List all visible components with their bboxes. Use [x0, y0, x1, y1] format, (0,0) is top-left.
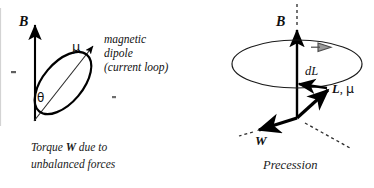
figure-canvas: B μ θ magnetic dipole (current loop) Tor…	[0, 0, 374, 188]
dipole-annotation-line-2: dipole	[104, 47, 133, 60]
scan-speck-left	[11, 71, 16, 73]
precession-torque-vector-W-label: W	[255, 134, 267, 149]
precession-direction-arrowhead	[311, 43, 331, 51]
panel-magnetic-dipole-torque: B μ θ magnetic dipole (current loop) Tor…	[0, 0, 187, 188]
scan-speck-right	[112, 96, 116, 98]
dipole-annotation-line-1: magnetic	[104, 33, 146, 46]
torque-caption-prefix: Torque	[31, 141, 66, 153]
dL-increment-label: dL	[305, 64, 318, 78]
magnetic-moment-symbol-mu: μ	[346, 81, 354, 96]
torque-vector-W-shaft	[259, 118, 297, 130]
torque-caption-line-1: Torque W due to	[31, 141, 107, 154]
dipole-moment-mu-label: μ	[72, 40, 80, 55]
field-vector-B-label: B	[19, 14, 28, 30]
dipole-annotation-line-3: (current loop)	[104, 61, 168, 74]
panel-precession: B dL L, μ W Precession	[187, 0, 374, 188]
angular-momentum-and-moment-label: L, μ	[332, 82, 354, 96]
axis-dashed-lower-left	[239, 132, 253, 136]
torque-caption-symbol-W: W	[66, 141, 76, 153]
angular-momentum-symbol-L: L	[332, 82, 340, 96]
torque-caption-line-2: unbalanced forces	[31, 158, 115, 171]
precession-caption: Precession	[263, 158, 317, 172]
torque-caption-suffix: due to	[76, 141, 107, 153]
angular-momentum-vector-L-shaft	[297, 90, 328, 118]
angle-theta-label: θ	[37, 92, 44, 106]
axis-dashed-lower-right	[305, 123, 350, 148]
precession-field-vector-B-label: B	[276, 14, 285, 30]
